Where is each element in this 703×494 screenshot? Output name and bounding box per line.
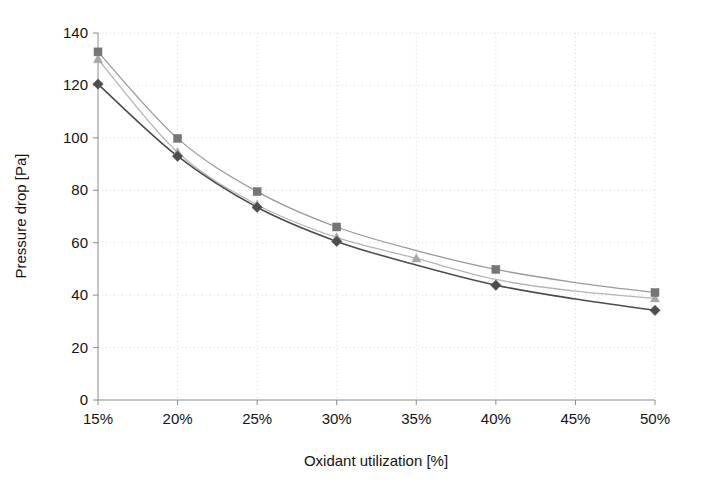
x-axis-tick-label: 30% <box>322 410 352 427</box>
y-axis-tick-label: 60 <box>71 234 88 251</box>
y-axis-tick-label: 140 <box>63 24 88 41</box>
x-axis-tick-label: 35% <box>401 410 431 427</box>
pressure-drop-chart: 020406080100120140 15%20%25%30%35%40%45%… <box>0 0 703 494</box>
y-axis-tick-label: 120 <box>63 76 88 93</box>
x-axis-tick-label: 15% <box>83 410 113 427</box>
x-axis-tick-label: 50% <box>640 410 670 427</box>
data-point-square <box>174 134 182 142</box>
y-axis-tick-label: 80 <box>71 181 88 198</box>
data-point-square <box>333 223 341 231</box>
x-axis-title: Oxidant utilization [%] <box>304 452 448 469</box>
data-point-square <box>651 289 659 297</box>
x-axis-tick-label: 20% <box>163 410 193 427</box>
y-axis-tick-label: 100 <box>63 129 88 146</box>
y-axis-tick-label: 0 <box>80 391 88 408</box>
x-axis-tick-label: 45% <box>560 410 590 427</box>
y-axis-title: Pressure drop [Pa] <box>12 153 29 278</box>
data-point-square <box>253 188 261 196</box>
y-axis-tick-label: 40 <box>71 286 88 303</box>
x-axis-tick-label: 25% <box>242 410 272 427</box>
y-axis-tick-label: 20 <box>71 339 88 356</box>
data-point-square <box>492 265 500 273</box>
data-point-square <box>94 48 102 56</box>
x-axis-tick-label: 40% <box>481 410 511 427</box>
